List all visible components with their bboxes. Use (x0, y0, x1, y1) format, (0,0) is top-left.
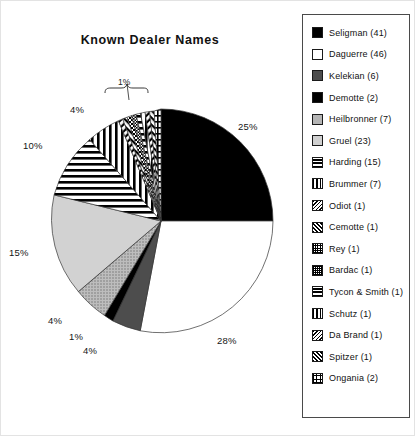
legend-item-ongania[interactable]: Ongania (2) (312, 368, 409, 390)
legend-swatch-ongania (312, 373, 323, 384)
legend-label-rey: Rey (1) (329, 244, 360, 254)
legend-label-tycon-smith: Tycon & Smith (1) (329, 287, 403, 297)
legend-label-demotte: Demotte (2) (329, 93, 378, 103)
legend-swatch-cemotte (312, 222, 323, 233)
pct-label-25: 25% (238, 121, 258, 132)
legend-item-daguerre[interactable]: Daguerre (46) (312, 44, 409, 66)
legend-label-ongania: Ongania (2) (329, 373, 378, 383)
legend-item-demotte[interactable]: Demotte (2) (312, 87, 409, 109)
legend-item-bardac[interactable]: Bardac (1) (312, 260, 409, 282)
legend-swatch-tycon-smith (312, 286, 323, 297)
pct-label-4-lower: 4% (48, 315, 62, 326)
legend-item-gruel[interactable]: Gruel (23) (312, 130, 409, 152)
legend-item-kelekian[interactable]: Kelekian (6) (312, 65, 409, 87)
pct-label-15: 15% (9, 247, 29, 258)
pct-label-4-bottom: 4% (83, 345, 97, 356)
legend-label-kelekian: Kelekian (6) (329, 71, 379, 81)
legend-label-schutz: Schutz (1) (329, 309, 372, 319)
legend-swatch-seligman (312, 27, 323, 38)
legend-item-seligman[interactable]: Seligman (41) (312, 22, 409, 44)
pie-chart-panel: Known Dealer Names (1, 1, 299, 421)
pct-label-10: 10% (23, 140, 43, 151)
legend-label-spitzer: Spitzer (1) (329, 352, 372, 362)
figure-frame: Known Dealer Names (0, 0, 415, 436)
legend-item-da-brand[interactable]: Da Brand (1) (312, 324, 409, 346)
legend-swatch-spitzer (312, 351, 323, 362)
legend-label-cemotte: Cemotte (1) (329, 222, 378, 232)
legend-item-rey[interactable]: Rey (1) (312, 238, 409, 260)
bracket-annotation-label: 1% (118, 77, 130, 87)
legend-label-harding: Harding (15) (329, 157, 381, 167)
legend-swatch-rey (312, 243, 323, 254)
legend-swatch-odiot (312, 200, 323, 211)
legend-label-odiot: Odiot (1) (329, 201, 365, 211)
legend-swatch-demotte (312, 92, 323, 103)
legend-item-odiot[interactable]: Odiot (1) (312, 195, 409, 217)
pct-label-1-lower: 1% (69, 331, 83, 342)
legend-item-heilbronner[interactable]: Heilbronner (7) (312, 108, 409, 130)
legend-item-brummer[interactable]: Brummer (7) (312, 173, 409, 195)
legend-label-daguerre: Daguerre (46) (329, 49, 387, 59)
pie-chart-graphic (1, 1, 299, 421)
legend-swatch-daguerre (312, 49, 323, 60)
legend-swatch-bardac (312, 265, 323, 276)
legend-label-brummer: Brummer (7) (329, 179, 381, 189)
legend-swatch-brummer (312, 178, 323, 189)
legend-item-spitzer[interactable]: Spitzer (1) (312, 346, 409, 368)
legend-label-gruel: Gruel (23) (329, 136, 371, 146)
legend-item-schutz[interactable]: Schutz (1) (312, 303, 409, 325)
legend-swatch-gruel (312, 135, 323, 146)
legend-label-da-brand: Da Brand (1) (329, 330, 382, 340)
pct-label-28: 28% (217, 335, 237, 346)
legend-swatch-da-brand (312, 330, 323, 341)
legend-label-seligman: Seligman (41) (329, 28, 387, 38)
legend-swatch-harding (312, 157, 323, 168)
legend-item-tycon-smith[interactable]: Tycon & Smith (1) (312, 281, 409, 303)
pie-slice-daguerre (140, 221, 273, 333)
legend-label-heilbronner: Heilbronner (7) (329, 114, 391, 124)
legend-label-bardac: Bardac (1) (329, 265, 373, 275)
legend-item-harding[interactable]: Harding (15) (312, 152, 409, 174)
chart-legend: Seligman (41) Daguerre (46) Kelekian (6)… (302, 14, 410, 418)
legend-swatch-kelekian (312, 70, 323, 81)
legend-swatch-heilbronner (312, 114, 323, 125)
legend-swatch-schutz (312, 308, 323, 319)
pct-label-4-upper: 4% (70, 104, 84, 115)
legend-item-cemotte[interactable]: Cemotte (1) (312, 216, 409, 238)
